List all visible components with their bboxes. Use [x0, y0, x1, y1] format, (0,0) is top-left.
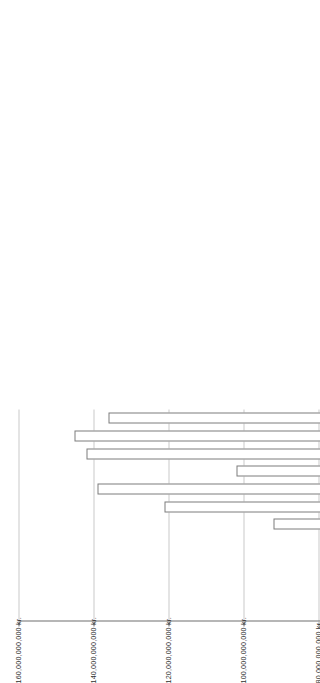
bar-group[interactable] — [18, 536, 308, 547]
bar-group[interactable] — [18, 483, 308, 494]
bar-group[interactable] — [18, 412, 308, 423]
bar-segment[interactable] — [97, 483, 308, 494]
plot-wrapper: 0 kr.20,000,000,000 kr.40,000,000,000 kr… — [0, 0, 308, 683]
tick-label: 160,000,000,000 kr. — [13, 629, 22, 683]
plot-area — [18, 409, 308, 621]
bar-group[interactable] — [18, 607, 308, 618]
rotated-chart-canvas: 0 kr.20,000,000,000 kr.40,000,000,000 kr… — [0, 0, 308, 683]
bar-segment[interactable] — [86, 448, 309, 459]
bar-group[interactable] — [18, 554, 308, 565]
bar-group[interactable] — [18, 589, 308, 600]
tick-label: 120,000,000,000 kr. — [163, 629, 172, 683]
chart-figure: 0 kr.20,000,000,000 kr.40,000,000,000 kr… — [0, 0, 308, 683]
bar-group[interactable] — [18, 501, 308, 512]
bar-group[interactable] — [18, 571, 308, 582]
bar-segment[interactable] — [236, 465, 309, 476]
bar-segment[interactable] — [273, 518, 308, 529]
tick-label: 100,000,000,000 kr. — [238, 629, 247, 683]
bar-group[interactable] — [18, 448, 308, 459]
bar-group[interactable] — [18, 430, 308, 441]
bar-group[interactable] — [18, 518, 308, 529]
tick-label: 140,000,000,000 kr. — [88, 629, 97, 683]
bar-segment[interactable] — [108, 412, 308, 423]
bar-group[interactable] — [18, 465, 308, 476]
bar-segment[interactable] — [164, 501, 308, 512]
bar-segment[interactable] — [74, 430, 308, 441]
